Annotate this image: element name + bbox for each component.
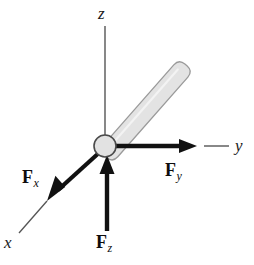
axis-label-x: x xyxy=(4,234,12,251)
axis-label-y: y xyxy=(235,137,243,154)
force-subscript-y: y xyxy=(177,169,182,183)
axis-line-x xyxy=(19,201,47,233)
axis-label-z: z xyxy=(98,5,105,22)
force-vector-fz xyxy=(100,155,115,231)
force-vector-fx xyxy=(47,151,101,203)
force-label-fy: Fy xyxy=(165,161,181,179)
joint-origin xyxy=(94,135,116,157)
force-symbol-f: F xyxy=(96,232,107,252)
force-diagram: z y x Fx Fy Fz xyxy=(0,0,254,265)
force-subscript-x: x xyxy=(34,176,39,190)
force-label-fx: Fx xyxy=(22,168,38,186)
diagram-canvas xyxy=(0,0,254,265)
force-symbol-f: F xyxy=(165,160,176,180)
force-label-fz: Fz xyxy=(96,233,112,251)
force-subscript-z: z xyxy=(108,241,113,255)
force-symbol-f: F xyxy=(22,167,33,187)
